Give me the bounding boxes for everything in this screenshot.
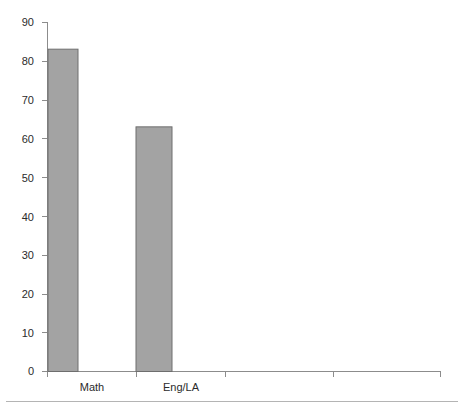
y-tick-marks [42, 23, 47, 372]
y-tick-label-80: 80 [8, 55, 34, 67]
y-tick-label-0: 0 [8, 365, 34, 377]
y-tick-label-50: 50 [8, 172, 34, 184]
x-tick-label-eng-la: Eng/LA [141, 381, 221, 393]
bar-chart: 90 80 70 60 50 40 30 20 10 0 Math Eng/LA [0, 0, 464, 414]
y-tick-label-60: 60 [8, 133, 34, 145]
bar-eng-la [136, 127, 172, 372]
y-tick-label-70: 70 [8, 94, 34, 106]
y-tick-label-90: 90 [8, 16, 34, 28]
y-tick-label-20: 20 [8, 288, 34, 300]
chart-screenshot: 90 80 70 60 50 40 30 20 10 0 Math Eng/LA [0, 0, 464, 414]
y-tick-label-30: 30 [8, 249, 34, 261]
bar-series [48, 49, 172, 371]
y-tick-label-40: 40 [8, 211, 34, 223]
x-tick-label-math: Math [52, 381, 132, 393]
chart-canvas [0, 0, 464, 414]
bar-math [48, 49, 78, 371]
y-tick-label-10: 10 [8, 327, 34, 339]
